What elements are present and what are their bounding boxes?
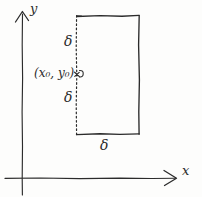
center-point-hook <box>80 70 84 77</box>
y-axis-line <box>22 14 23 195</box>
rectangle-right-edge <box>139 15 140 134</box>
delta-rectangle-group <box>76 15 139 134</box>
rectangle-bottom-edge <box>77 134 140 135</box>
y-axis-group <box>16 12 29 196</box>
sketch-drawing-layer <box>0 0 202 197</box>
center-point-marker <box>75 70 84 77</box>
delta-label-middle: δ <box>64 89 72 105</box>
x-axis-label: x <box>182 163 189 178</box>
delta-label-bottom: δ <box>100 137 108 153</box>
x-axis-line <box>5 178 175 179</box>
center-point-label: (x₀, y₀) <box>34 66 74 80</box>
delta-label-top: δ <box>64 33 72 49</box>
y-axis-label: y <box>30 1 37 16</box>
rectangle-top-edge <box>77 15 139 16</box>
x-axis-group <box>5 171 177 186</box>
diagram-canvas: y x δ δ δ (x₀, y₀) <box>0 0 202 197</box>
